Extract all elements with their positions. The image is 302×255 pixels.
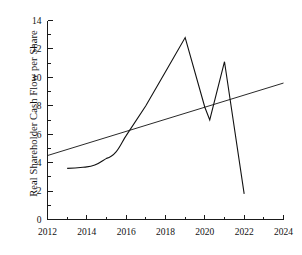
y-tick-label: 8 <box>37 101 42 111</box>
x-tick-label: 2020 <box>195 227 214 237</box>
y-tick-label: 12 <box>32 44 42 54</box>
y-tick-label: 4 <box>37 158 42 168</box>
x-tick-label: 2014 <box>77 227 96 237</box>
data-series-line <box>67 38 244 194</box>
chart-plot-area: 201220142016201820202022202402468101214 <box>0 0 302 255</box>
y-tick-label: 2 <box>37 186 42 196</box>
x-tick-label: 2024 <box>274 227 293 237</box>
y-tick-label: 14 <box>32 16 42 26</box>
y-tick-label: 6 <box>37 130 42 140</box>
tick-group <box>48 21 284 220</box>
y-tick-label: 10 <box>32 73 42 83</box>
x-tick-label: 2012 <box>38 227 57 237</box>
x-tick-label: 2016 <box>117 227 136 237</box>
x-tick-label: 2018 <box>156 227 175 237</box>
tick-label-group: 201220142016201820202022202402468101214 <box>32 16 293 237</box>
y-tick-label: 0 <box>37 215 42 225</box>
chart-container: Real Shareholder Cash Flow per Share 201… <box>0 0 302 255</box>
trend-line <box>48 83 284 155</box>
x-tick-label: 2022 <box>235 227 254 237</box>
axis-group <box>48 21 284 220</box>
